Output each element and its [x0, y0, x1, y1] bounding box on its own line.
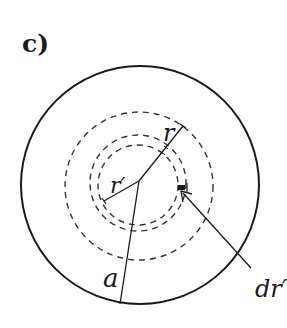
label-dr-prime: dr′ — [255, 275, 287, 303]
label-r: r — [163, 119, 176, 147]
radius-r-prime-tick — [102, 198, 106, 204]
dr-prime-arrow-line — [183, 193, 251, 268]
outer-sphere-boundary — [21, 66, 259, 304]
label-r-prime: r′ — [110, 173, 126, 198]
dashed-shell-outer — [65, 112, 213, 260]
dashed-shell-middle — [90, 135, 186, 231]
sphere-diagram: c) r r′ a dr′ — [0, 0, 287, 328]
shell-element-marker — [178, 185, 185, 190]
label-a: a — [103, 263, 119, 293]
radius-a-line — [120, 181, 139, 304]
radius-r-tick — [180, 124, 186, 128]
diagram-canvas: r r′ a dr′ — [0, 0, 287, 328]
